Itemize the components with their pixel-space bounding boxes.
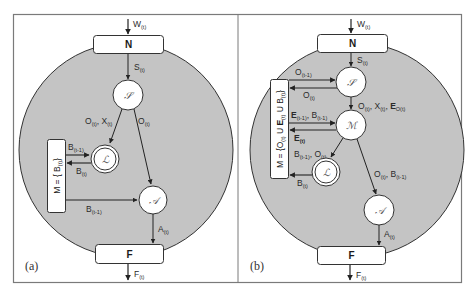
n-box-label-b: N (349, 38, 356, 49)
panel-label-a: (a) (25, 259, 38, 273)
l-node-label-b: ℒ (323, 167, 331, 178)
m-node-label-b: ℳ (346, 120, 358, 131)
n-box-label-a: N (125, 39, 132, 50)
memory-box-label-b: M = {O(t) U E(t) U B(t)} (275, 90, 286, 168)
l-node-label-a: ℒ (102, 154, 110, 165)
panel-label-b: (b) (250, 259, 264, 273)
f-box-label-a: F (126, 249, 132, 260)
figure-canvas: W(t) N S(t) 𝒮 O(t), X(t) O(t) M = { B(t)… (0, 0, 476, 294)
f-box-label-b: F (348, 250, 354, 261)
